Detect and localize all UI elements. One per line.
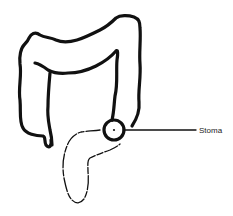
colon-stoma-diagram: Stoma [0, 0, 233, 216]
stoma-label: Stoma [199, 126, 223, 135]
colon-ascending-inner-wall [48, 73, 52, 145]
stoma-center-dot [113, 129, 115, 131]
